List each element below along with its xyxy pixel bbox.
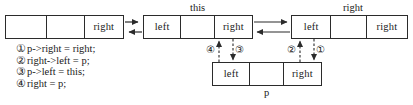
legend-number-2: ② xyxy=(16,55,26,67)
p-node-cell-data xyxy=(250,63,283,85)
this-node-cell-right: right xyxy=(215,16,252,38)
legend-line-1: ①p->right = right; xyxy=(16,43,136,55)
step-marker-1: ① xyxy=(316,45,325,56)
legend-line-3: ③p->left = this; xyxy=(16,66,136,78)
legend-code-4: right = p; xyxy=(27,78,66,89)
previous-node-cell-2 xyxy=(47,16,84,38)
right-node: left right xyxy=(291,15,408,39)
p-node: left right xyxy=(212,62,322,86)
legend-code-2: right->left = p; xyxy=(27,55,90,66)
step-marker-3: ③ xyxy=(235,45,244,56)
this-node-cell-left: left xyxy=(144,16,181,38)
code-legend: ①p->right = right; ②right->left = p; ③p-… xyxy=(16,43,136,89)
p-node-cell-right: right xyxy=(284,63,321,85)
p-node-cell-left: left xyxy=(213,63,250,85)
legend-code-3: p->left = this; xyxy=(27,66,85,77)
this-node-cell-data xyxy=(181,16,214,38)
right-node-cell-right: right xyxy=(367,16,407,38)
this-node-label: this xyxy=(190,3,205,14)
right-node-cell-data xyxy=(331,16,366,38)
legend-number-3: ③ xyxy=(16,66,26,78)
step-marker-4: ④ xyxy=(206,45,215,56)
legend-code-1: p->right = right; xyxy=(27,43,95,54)
legend-line-2: ②right->left = p; xyxy=(16,55,136,67)
previous-node-cell-1 xyxy=(6,16,47,38)
step-marker-2: ② xyxy=(287,45,296,56)
legend-number-4: ④ xyxy=(16,78,26,90)
linked-list-insertion-diagram: right this left right right left right l… xyxy=(0,0,413,105)
p-node-label: p xyxy=(264,88,269,99)
previous-node: right xyxy=(5,15,124,39)
this-node: left right xyxy=(143,15,253,39)
right-node-label: right xyxy=(343,3,363,14)
legend-number-1: ① xyxy=(16,43,26,55)
previous-node-cell-right: right xyxy=(85,16,123,38)
legend-line-4: ④right = p; xyxy=(16,78,136,90)
right-node-cell-left: left xyxy=(292,16,331,38)
